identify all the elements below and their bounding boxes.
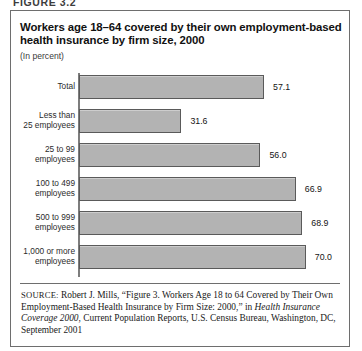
bar xyxy=(79,143,260,167)
bar-value-label: 31.6 xyxy=(190,116,207,126)
chart-subtitle: (In percent) xyxy=(20,51,342,61)
bar-row: 1,000 or more employees70.0 xyxy=(11,243,349,271)
bar-row: 100 to 499 employees66.9 xyxy=(11,175,349,203)
bar-category-label: 25 to 99 employees xyxy=(9,145,75,164)
bar-row: Less than 25 employees31.6 xyxy=(11,107,349,135)
figure-frame: Workers age 18–64 covered by their own e… xyxy=(10,10,350,347)
figure-number: FIGURE 3.2 xyxy=(13,0,76,6)
bar-category-label: 500 to 999 employees xyxy=(9,213,75,232)
page-title: Workers age 18–64 covered by their own e… xyxy=(20,21,342,48)
bar-value-label: 66.9 xyxy=(305,184,322,194)
source-divider xyxy=(20,283,340,284)
bar-category-label: Less than 25 employees xyxy=(9,111,75,130)
bar-value-label: 57.1 xyxy=(273,82,290,92)
bar xyxy=(79,109,181,133)
bar-value-label: 56.0 xyxy=(269,150,286,160)
bar-category-label: 1,000 or more employees xyxy=(9,247,75,266)
bar-value-label: 68.9 xyxy=(311,218,328,228)
source-kicker: SOURCE: xyxy=(21,290,59,300)
bar-category-label: 100 to 499 employees xyxy=(9,179,75,198)
bar-value-label: 70.0 xyxy=(315,252,332,262)
bar-row: Total57.1 xyxy=(11,73,349,101)
bar xyxy=(79,245,306,269)
bar xyxy=(79,75,264,99)
bar xyxy=(79,177,296,201)
bar-category-label: Total xyxy=(9,82,75,92)
bar-row: 25 to 99 employees56.0 xyxy=(11,141,349,169)
figure-page: FIGURE 3.2 Workers age 18–64 covered by … xyxy=(0,0,362,351)
title-block: Workers age 18–64 covered by their own e… xyxy=(20,21,342,61)
chart-plot-area: Total57.1Less than 25 employees31.625 to… xyxy=(11,67,349,283)
bar xyxy=(79,211,302,235)
source-note: SOURCE: Robert J. Mills, “Figure 3. Work… xyxy=(21,290,339,336)
bar-row: 500 to 999 employees68.9 xyxy=(11,209,349,237)
